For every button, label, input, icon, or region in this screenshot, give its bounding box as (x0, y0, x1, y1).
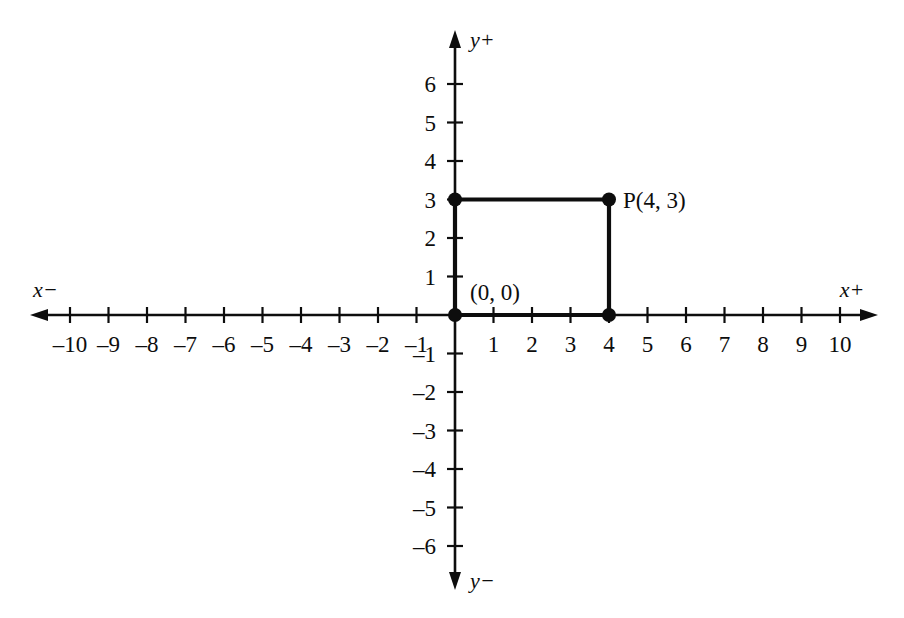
x-tick-label: 10 (829, 332, 852, 357)
origin-point-label: (0, 0) (470, 280, 520, 305)
x-tick-label: 6 (680, 332, 692, 357)
x-tick-label: –7 (173, 332, 197, 357)
x-tick-label: –10 (52, 332, 88, 357)
x-tick-label: 3 (565, 332, 577, 357)
y-tick-label: –2 (412, 380, 436, 405)
y-axis-positive-arrow-icon (449, 30, 461, 48)
x-negative-axis-label: x− (32, 277, 58, 302)
x-tick-label: –8 (135, 332, 159, 357)
coordinate-plane-figure: –10–9–8–7–6–5–4–3–2–112345678910 654321–… (0, 0, 904, 618)
x-axis-positive-arrow-icon (860, 309, 878, 321)
x-axis-negative-arrow-icon (30, 309, 48, 321)
x-tick-label: 4 (603, 332, 615, 357)
x-positive-axis-label: x+ (839, 277, 865, 302)
x-tick-label: –5 (250, 332, 274, 357)
x-tick-label: 9 (796, 332, 808, 357)
y-tick-label: –3 (412, 419, 436, 444)
y-negative-axis-label: y− (468, 568, 495, 593)
x-tick-label: 1 (488, 332, 500, 357)
x-tick-label: 7 (719, 332, 731, 357)
y-tick-label: 1 (425, 265, 437, 290)
y-tick-label: 3 (425, 188, 437, 213)
x-tick-label: –2 (366, 332, 390, 357)
vertex-dot-corner-x-axis (602, 308, 616, 322)
point-p-label: P(4, 3) (623, 188, 686, 213)
y-tick-label: –4 (412, 457, 437, 482)
y-tick-label: 4 (425, 149, 437, 174)
vertex-dot-corner-y-axis (448, 193, 462, 207)
coordinate-plot-svg: –10–9–8–7–6–5–4–3–2–112345678910 654321–… (0, 0, 904, 618)
y-tick-label: –5 (412, 496, 436, 521)
x-tick-label: –4 (289, 332, 314, 357)
x-tick-label: –3 (327, 332, 351, 357)
y-positive-axis-label: y+ (468, 27, 495, 52)
x-tick-label: 2 (526, 332, 538, 357)
vertex-dot-origin (448, 308, 462, 322)
y-tick-label: –6 (412, 534, 436, 559)
vertex-dot-point-p (602, 193, 616, 207)
x-tick-label: –6 (212, 332, 236, 357)
y-tick-label: –1 (412, 342, 436, 367)
y-tick-label: 2 (425, 226, 437, 251)
x-tick-label: –9 (96, 332, 120, 357)
x-tick-label: 5 (642, 332, 654, 357)
y-axis-negative-arrow-icon (449, 572, 461, 590)
x-tick-label: 8 (757, 332, 769, 357)
y-tick-label: 5 (425, 111, 437, 136)
y-tick-label: 6 (425, 72, 437, 97)
